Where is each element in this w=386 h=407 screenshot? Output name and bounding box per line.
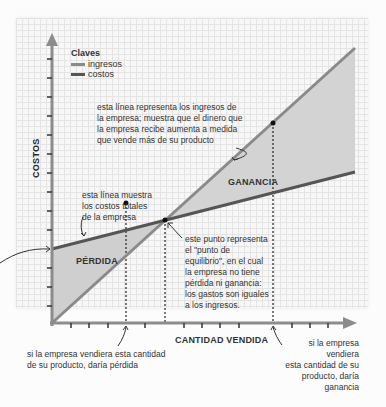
profit-point bbox=[271, 121, 276, 126]
legend-label-costos: costos bbox=[88, 69, 114, 79]
y-axis-arrow-icon bbox=[46, 33, 58, 46]
ingresos-swatch-icon bbox=[71, 63, 85, 66]
cost-line-annotation: esta línea muestra los costos totales de… bbox=[82, 190, 152, 223]
loss-quantity-arrow-icon bbox=[118, 327, 126, 346]
y-axis-label: COSTOS bbox=[31, 138, 41, 178]
intercept-arrow-icon bbox=[0, 249, 50, 263]
costos-swatch-icon bbox=[71, 73, 85, 76]
x-axis-arrow-icon bbox=[343, 317, 357, 329]
x-axis-label: CANTIDAD VENDIDA bbox=[175, 335, 268, 346]
break-even-annotation-arrow-icon bbox=[168, 223, 182, 238]
break-even-annotation: este punto representa el "punto de equil… bbox=[185, 234, 269, 311]
revenue-line-annotation: esta línea representa los ingresos de la… bbox=[97, 102, 243, 146]
profit-quantity-annotation: si la empresa vendiera esta cantidad de … bbox=[274, 338, 359, 393]
diagram-page: Claves ingresos costos COSTOS CANTIDAD V… bbox=[0, 0, 386, 407]
loss-quantity-annotation: si la empresa vendiera esta cantidad de … bbox=[27, 349, 165, 371]
legend-label-ingresos: ingresos bbox=[88, 59, 122, 69]
legend-item-ingresos: ingresos bbox=[71, 59, 122, 69]
legend-title: Claves bbox=[71, 48, 122, 59]
legend: Claves ingresos costos bbox=[71, 48, 122, 79]
profit-region-label: GANANCIA bbox=[228, 177, 278, 188]
loss-region-label: PÉRDIDA bbox=[76, 256, 118, 267]
legend-item-costos: costos bbox=[71, 69, 122, 79]
break-even-point bbox=[163, 218, 168, 223]
